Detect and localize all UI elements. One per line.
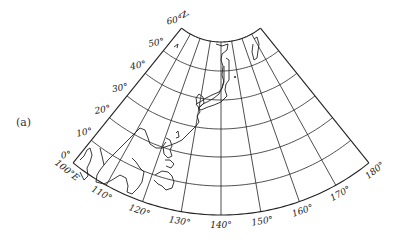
coastlines: [80, 37, 259, 194]
lon-label-160: 160°: [291, 202, 315, 219]
lon-label-100: 100°E: [53, 158, 82, 184]
meridian-160: [242, 38, 299, 201]
parallel-60: [182, 28, 261, 42]
conic-projection-map: 0°10°20°30°40°50°60°N100°E110°120°130°14…: [0, 0, 396, 242]
small-island-dot: [234, 76, 236, 78]
lon-label-150: 150°: [251, 214, 274, 228]
philippines-south: [165, 160, 174, 168]
lat-label-30: 30°: [111, 81, 129, 94]
kamchatka-small-island: [174, 44, 178, 48]
lon-label-140: 140°: [210, 220, 232, 230]
lat-label-50: 50°: [147, 36, 165, 49]
meridian-180: [260, 28, 368, 163]
asia-coast-north: [104, 44, 228, 165]
lat-label-10: 10°: [75, 126, 93, 139]
lat-label-20: 20°: [93, 103, 112, 116]
lon-label-130: 130°: [168, 214, 191, 228]
borneo: [154, 171, 174, 190]
lon-label-180: 180°: [363, 160, 386, 181]
taiwan: [176, 131, 179, 138]
meridian-110: [106, 34, 190, 185]
indochina-coast: [96, 148, 144, 194]
graticule-labels: 0°10°20°30°40°50°60°N100°E110°120°130°14…: [53, 8, 386, 230]
meridian-150: [232, 41, 261, 212]
lat-label-40: 40°: [128, 59, 147, 72]
meridian-120: [143, 38, 200, 201]
meridian-170: [252, 34, 336, 185]
japan-honshu: [198, 58, 229, 110]
lon-label-120: 120°: [128, 202, 152, 219]
graticule: [73, 28, 369, 215]
